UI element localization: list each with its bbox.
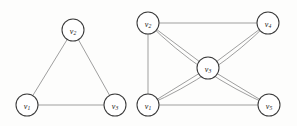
edge-left-graph-v2-v3 (73, 30, 115, 105)
node-right-graph-v5[interactable]: v5 (258, 94, 280, 116)
graph-figure: v1v2v3v1v2v3v4v5 (0, 0, 297, 126)
node-right-graph-v3[interactable]: v3 (197, 57, 219, 79)
node-right-graph-v1[interactable]: v1 (137, 94, 159, 116)
edge-left-graph-v1-v2 (27, 30, 73, 105)
graph-canvas: v1v2v3v1v2v3v4v5 (0, 0, 297, 126)
node-left-graph-v1[interactable]: v1 (16, 94, 38, 116)
node-left-graph-v3[interactable]: v3 (104, 94, 126, 116)
node-left-graph-v2[interactable]: v2 (62, 19, 84, 41)
node-right-graph-v4[interactable]: v4 (257, 12, 279, 34)
node-right-graph-v2[interactable]: v2 (137, 12, 159, 34)
